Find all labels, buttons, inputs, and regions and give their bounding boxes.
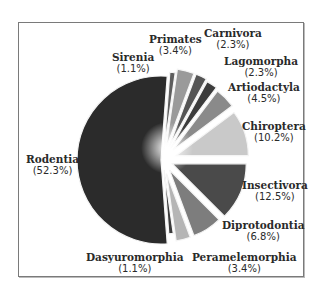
label-pct: (52.3%) bbox=[26, 165, 79, 176]
label-name: Sirenia bbox=[112, 51, 154, 63]
label-name: Insectivora bbox=[242, 179, 308, 191]
label-pct: (3.4%) bbox=[192, 263, 297, 274]
label-name: Diprotodontia bbox=[222, 219, 304, 231]
label-artiodactyla: Artiodactyla (4.5%) bbox=[228, 82, 300, 104]
label-pct: (4.5%) bbox=[228, 93, 300, 104]
label-pct: (10.2%) bbox=[242, 132, 306, 143]
label-name: Chiroptera bbox=[242, 120, 306, 132]
label-pct: (3.4%) bbox=[149, 45, 202, 56]
label-pct: (2.3%) bbox=[224, 67, 298, 78]
center-glow bbox=[141, 122, 193, 174]
label-pct: (6.8%) bbox=[222, 231, 304, 242]
label-name: Dasyuromorphia bbox=[86, 251, 184, 263]
label-name: Peramelemorphia bbox=[192, 251, 297, 263]
label-name: Lagomorpha bbox=[224, 55, 298, 67]
label-diprotodontia: Diprotodontia (6.8%) bbox=[222, 220, 304, 242]
label-name: Primates bbox=[149, 33, 202, 45]
label-pct: (2.3%) bbox=[204, 39, 262, 50]
label-name: Artiodactyla bbox=[228, 81, 300, 93]
label-peramelemorphia: Peramelemorphia (3.4%) bbox=[192, 252, 297, 274]
label-pct: (12.5%) bbox=[242, 191, 308, 202]
label-name: Rodentia bbox=[26, 153, 79, 165]
label-lagomorpha: Lagomorpha (2.3%) bbox=[224, 56, 298, 78]
label-pct: (1.1%) bbox=[86, 263, 184, 274]
label-carnivora: Carnivora (2.3%) bbox=[204, 28, 262, 50]
label-primates: Primates (3.4%) bbox=[149, 34, 202, 56]
label-sirenia: Sirenia (1.1%) bbox=[112, 52, 154, 74]
label-insectivora: Insectivora (12.5%) bbox=[242, 180, 308, 202]
label-rodentia: Rodentia (52.3%) bbox=[26, 154, 79, 176]
label-dasyuromorphia: Dasyuromorphia (1.1%) bbox=[86, 252, 184, 274]
label-name: Carnivora bbox=[204, 27, 262, 39]
label-chiroptera: Chiroptera (10.2%) bbox=[242, 121, 306, 143]
label-pct: (1.1%) bbox=[112, 63, 154, 74]
